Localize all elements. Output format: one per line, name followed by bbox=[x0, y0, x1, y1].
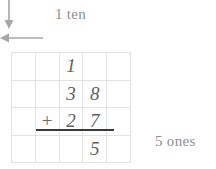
sum-rule bbox=[36, 129, 114, 131]
addition-grid-table: 1 3 8 + 2 7 bbox=[11, 52, 131, 163]
grid-cell bbox=[12, 108, 36, 136]
worksheet-canvas: 1 ten 1 3 8 bbox=[0, 0, 216, 169]
grid-cell-addend1-tens: 3 bbox=[59, 80, 83, 108]
grid-cell bbox=[59, 135, 83, 163]
arrow-left-icon-svg bbox=[0, 30, 44, 46]
addend1-tens-digit: 3 bbox=[60, 81, 83, 107]
grid-cell bbox=[12, 53, 36, 81]
grid-cell bbox=[12, 135, 36, 163]
grid-cell bbox=[107, 80, 131, 108]
grid-cell bbox=[12, 80, 36, 108]
table-row: 3 8 bbox=[12, 80, 131, 108]
table-row: 5 bbox=[12, 135, 131, 163]
arrow-left-icon bbox=[0, 30, 44, 46]
grid-cell-carry: 1 bbox=[59, 53, 83, 81]
arrow-down-icon bbox=[0, 0, 18, 30]
table-row: 1 bbox=[12, 53, 131, 81]
grid-cell bbox=[107, 135, 131, 163]
grid-cell bbox=[83, 53, 107, 81]
ones-annotation-label: 5 ones bbox=[155, 133, 196, 149]
carry-digit: 1 bbox=[60, 53, 83, 79]
grid-cell bbox=[35, 135, 59, 163]
grid-cell bbox=[35, 53, 59, 81]
grid-cell-sum-ones: 5 bbox=[83, 135, 107, 163]
addend1-ones-digit: 8 bbox=[83, 81, 106, 107]
addition-grid: 1 3 8 + 2 7 bbox=[11, 52, 125, 158]
grid-cell-addend1-ones: 8 bbox=[83, 80, 107, 108]
sum-ones-digit: 5 bbox=[83, 136, 106, 162]
arrow-down-icon-svg bbox=[0, 0, 18, 30]
grid-cell bbox=[107, 53, 131, 81]
carry-annotation-label: 1 ten bbox=[55, 6, 86, 22]
grid-cell bbox=[35, 80, 59, 108]
